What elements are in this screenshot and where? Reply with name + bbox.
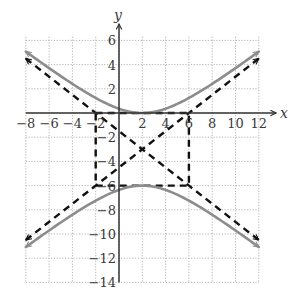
x-tick-label: 8	[208, 116, 216, 131]
x-tick-label: 12	[251, 116, 268, 131]
x-tick-label: 6	[185, 116, 193, 131]
x-tick-label: −4	[63, 116, 82, 131]
x-tick-label: 4	[161, 116, 169, 131]
y-tick-label: −4	[97, 154, 116, 169]
y-axis-label: y	[113, 7, 123, 23]
y-tick-label: −10	[89, 227, 116, 242]
grid-lines	[26, 37, 259, 283]
hyperbola-graph: −8−6−4−224681012 642−2−4−6−8−10−12−14 x …	[0, 0, 293, 298]
y-tick-label: −14	[89, 275, 116, 290]
x-tick-label: 10	[227, 116, 244, 131]
asymptotes	[26, 59, 259, 241]
y-tick-labels: 642−2−4−6−8−10−12−14	[89, 33, 116, 290]
y-tick-label: −2	[97, 130, 116, 145]
axes	[26, 24, 276, 282]
y-tick-label: −6	[97, 179, 116, 194]
y-tick-label: 2	[108, 82, 116, 97]
x-tick-label: −8	[16, 116, 35, 131]
x-tick-label: 2	[138, 116, 146, 131]
x-tick-label: −6	[40, 116, 59, 131]
x-tick-labels: −8−6−4−224681012	[16, 116, 267, 131]
y-tick-label: 4	[108, 58, 116, 73]
x-tick-label: −2	[86, 116, 105, 131]
y-tick-label: −8	[97, 203, 116, 218]
asymptote-falling	[26, 59, 259, 241]
x-axis-label: x	[280, 105, 288, 121]
y-tick-label: 6	[108, 33, 116, 48]
y-tick-label: −12	[89, 251, 116, 266]
